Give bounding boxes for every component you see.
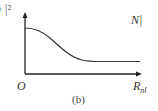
- figure-caption: (b): [72, 93, 85, 105]
- corner-label: N|: [131, 13, 142, 28]
- x-axis-label-subscript: nl: [140, 86, 146, 95]
- origin-label: O: [17, 79, 26, 94]
- x-axis-label: Rnl: [133, 79, 147, 95]
- y-axis-label: ⟩ |²: [0, 2, 11, 17]
- x-axis-arrow-icon: [136, 72, 142, 77]
- y-axis-arrow-icon: [23, 12, 28, 18]
- data-curve: [25, 28, 140, 62]
